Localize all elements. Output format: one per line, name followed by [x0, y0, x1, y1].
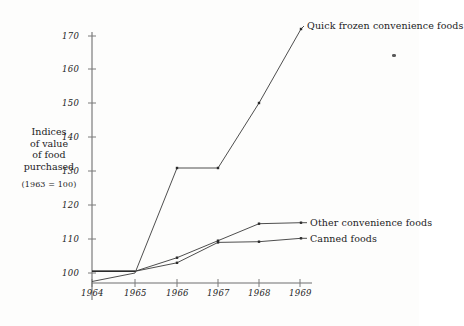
- y-tick-label-160: 160: [62, 64, 79, 74]
- y-tick-label-170: 170: [62, 31, 79, 41]
- y-tick-label-100: 100: [62, 268, 79, 278]
- x-tick-label-1966: 1966: [166, 288, 189, 298]
- label-leader-lines: [301, 26, 307, 238]
- y-axis-title: Indices of value of food purchased (1963…: [16, 126, 82, 191]
- series-line-other-convenience: [92, 223, 301, 272]
- y-axis-title-line-1: Indices: [16, 126, 82, 138]
- x-tick-label-1965: 1965: [124, 288, 147, 298]
- series-line-canned: [92, 238, 301, 271]
- y-axis-title-line-3: of food: [16, 149, 82, 161]
- y-axis-title-line-4: purchased: [16, 161, 82, 173]
- y-tick-label-110: 110: [62, 234, 79, 244]
- x-tick-label-1967: 1967: [207, 288, 230, 298]
- y-axis-normalization-note: (1963 = 100): [16, 179, 82, 191]
- scan-artifact-speck: [392, 54, 396, 57]
- x-tick-label-1964: 1964: [81, 288, 104, 298]
- series-line-quick-frozen: [92, 29, 301, 282]
- series-markers-other-convenience: [176, 222, 302, 259]
- x-tick-label-1968: 1968: [248, 288, 271, 298]
- series-label-canned: Canned foods: [310, 233, 377, 244]
- series-label-quick-frozen: Quick frozen convenience foods: [307, 20, 464, 31]
- y-tick-label-150: 150: [62, 98, 79, 108]
- y-tick-label-120: 120: [62, 200, 79, 210]
- x-tick-label-1969: 1969: [289, 288, 312, 298]
- series-label-other-convenience: Other convenience foods: [310, 217, 432, 228]
- series-markers-quick-frozen: [176, 28, 302, 169]
- y-axis-title-line-2: of value: [16, 138, 82, 150]
